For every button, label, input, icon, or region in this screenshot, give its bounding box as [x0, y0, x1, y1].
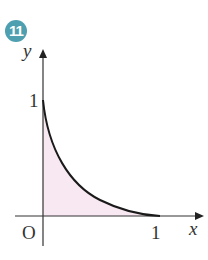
chart-plot [0, 0, 208, 260]
origin-label: O [22, 222, 36, 244]
x-tick-label-1: 1 [151, 222, 161, 244]
y-axis-arrow-icon [39, 49, 47, 58]
x-axis-label: x [189, 218, 197, 240]
y-axis-label: y [23, 40, 31, 62]
y-tick-label-1: 1 [29, 90, 39, 112]
